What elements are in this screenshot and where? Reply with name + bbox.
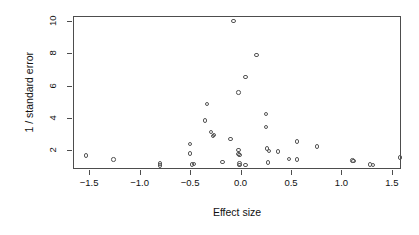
data-point <box>351 159 355 163</box>
data-point <box>264 112 268 116</box>
x-axis-tick-label: 0.0 <box>221 178 261 188</box>
data-point <box>371 163 375 167</box>
data-point <box>266 160 270 164</box>
data-point <box>111 157 115 161</box>
x-axis-tick <box>140 170 141 175</box>
y-axis-tick <box>67 118 72 119</box>
data-point <box>220 160 224 164</box>
data-point <box>236 90 240 94</box>
x-axis-tick-label: 0.5 <box>271 178 311 188</box>
data-point <box>243 163 247 167</box>
x-axis-title: Effect size <box>73 207 401 218</box>
x-axis-tick <box>89 170 90 175</box>
data-point <box>203 118 207 122</box>
y-axis-tick-label: 2 <box>48 139 58 161</box>
x-axis-tick <box>392 170 393 175</box>
x-axis-tick-label: −1.0 <box>120 178 160 188</box>
data-point <box>188 151 192 155</box>
data-point <box>228 137 232 141</box>
data-point <box>267 149 271 153</box>
x-axis-tick-label: 1.5 <box>372 178 412 188</box>
data-point <box>398 155 402 159</box>
x-axis-tick <box>291 170 292 175</box>
data-point <box>295 157 299 161</box>
x-axis-tick <box>190 170 191 175</box>
x-axis-tick-label: 1.0 <box>321 178 361 188</box>
data-point <box>84 153 88 157</box>
data-point <box>231 19 235 23</box>
x-axis-tick-label: −1.5 <box>69 178 109 188</box>
data-point <box>264 125 268 129</box>
y-axis-tick-label: 6 <box>48 74 58 96</box>
y-axis-tick <box>67 53 72 54</box>
data-point <box>295 139 299 143</box>
y-axis-tick-label: 4 <box>48 107 58 129</box>
x-axis-tick <box>341 170 342 175</box>
data-point <box>315 144 319 148</box>
x-axis-tick <box>241 170 242 175</box>
x-axis-tick-label: −0.5 <box>170 178 210 188</box>
y-axis-tick <box>67 150 72 151</box>
y-axis-title: 1 / standard error <box>24 15 35 168</box>
y-axis-tick <box>67 86 72 87</box>
y-axis-tick-label: 8 <box>48 42 58 64</box>
y-axis-tick <box>67 21 72 22</box>
y-axis-tick-label: 10 <box>48 10 58 32</box>
data-point <box>276 149 280 153</box>
data-point <box>158 163 162 167</box>
funnel-plot-figure: −1.5−1.0−0.50.00.51.01.5246810 Effect si… <box>0 0 419 235</box>
